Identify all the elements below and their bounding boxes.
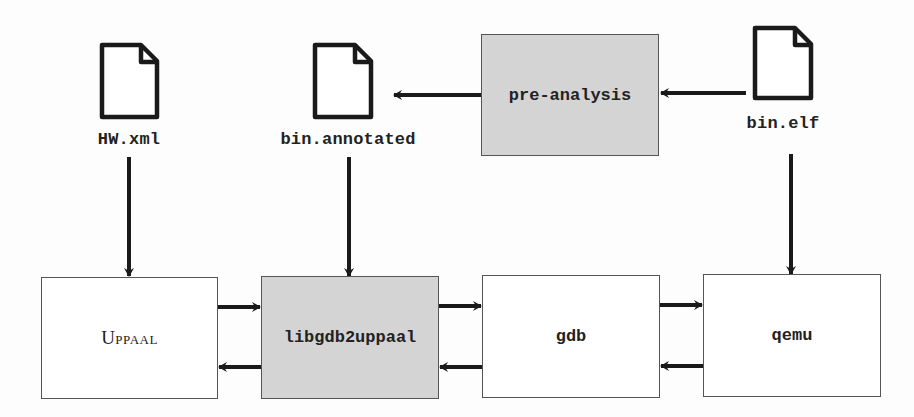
gdb-label: gdb (556, 327, 587, 346)
qemu-box: qemu (703, 274, 881, 397)
uppaal-label: Uppaal (101, 327, 158, 349)
file-label-hw-xml: HW.xml (79, 130, 179, 149)
pre-analysis-box: pre-analysis (481, 34, 659, 156)
pre-analysis-label: pre-analysis (509, 86, 631, 105)
uppaal-box: Uppaal (41, 277, 218, 399)
file-label-bin-elf: bin.elf (733, 114, 833, 133)
file-icon (102, 45, 157, 117)
libgdb2uppaal-label: libgdb2uppaal (284, 328, 417, 347)
file-icon (755, 28, 811, 98)
file-label-bin-annotated: bin.annotated (263, 130, 433, 149)
file-icon (315, 45, 371, 117)
gdb-box: gdb (482, 275, 660, 398)
libgdb2uppaal-box: libgdb2uppaal (261, 276, 439, 399)
qemu-label: qemu (772, 326, 813, 345)
